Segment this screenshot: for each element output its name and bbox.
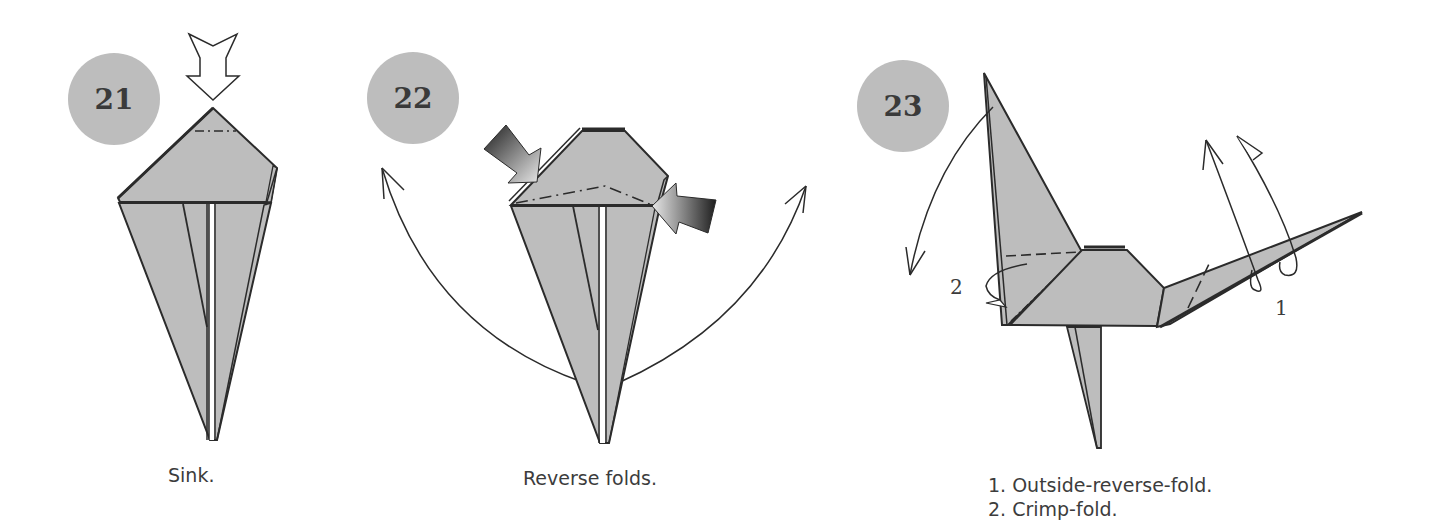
origami-diagram-page: 21 22 23 2 1 Sink. Reverse folds. 1. Out…	[0, 0, 1442, 532]
step-number: 22	[394, 82, 433, 115]
step-badge-21: 21	[68, 53, 160, 145]
step-number: 23	[884, 90, 923, 123]
step-number: 21	[95, 83, 134, 116]
outside-reverse-fold-label: 1	[1275, 296, 1288, 320]
step-23-figure	[906, 73, 1362, 448]
step-21-caption: Sink.	[168, 464, 214, 486]
sink-arrow-icon	[187, 34, 239, 100]
step-23-caption-list: 1. Outside-reverse-fold. 2. Crimp-fold.	[988, 473, 1212, 521]
step-22-figure	[382, 125, 806, 443]
step-23-caption-1: 1. Outside-reverse-fold.	[988, 473, 1212, 497]
diagram-artwork	[0, 0, 1442, 532]
step-23-caption-2: 2. Crimp-fold.	[988, 497, 1212, 521]
step-badge-23: 23	[857, 60, 949, 152]
step-badge-22: 22	[367, 52, 459, 144]
push-arrow-left-icon	[484, 125, 541, 183]
step-22-caption: Reverse folds.	[523, 467, 657, 489]
crimp-fold-label: 2	[950, 275, 963, 299]
